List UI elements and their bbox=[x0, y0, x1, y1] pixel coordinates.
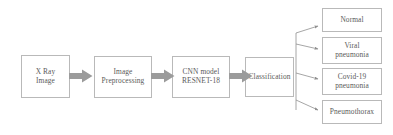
branch-line-covid bbox=[296, 73, 318, 79]
arrow-right-icon-xray-to-preprocessing bbox=[69, 69, 93, 83]
arrow-right-icon-cnn-to-classification bbox=[229, 69, 253, 83]
node-output-normal[interactable]: Normal bbox=[322, 8, 382, 32]
branch-line-viral bbox=[296, 44, 318, 49]
node-output-pneumothorax-label: Pneumothorax bbox=[330, 108, 374, 117]
node-output-covid-19-pneumonia[interactable]: Covid-19 pneumonia bbox=[322, 68, 382, 95]
flowchart-diagram: X Ray Image Image Preprocessing CNN mode… bbox=[0, 0, 393, 135]
node-image-preprocessing[interactable]: Image Preprocessing bbox=[94, 56, 152, 98]
node-x-ray-image[interactable]: X Ray Image bbox=[21, 55, 70, 98]
branch-line-pneumothorax bbox=[296, 100, 318, 110]
node-classification-label: Classification bbox=[248, 73, 290, 82]
node-image-preprocessing-label: Image Preprocessing bbox=[102, 68, 145, 85]
node-x-ray-image-label: X Ray Image bbox=[36, 68, 56, 85]
node-output-viral-pneumonia[interactable]: Viral pneumonia bbox=[322, 37, 382, 64]
node-output-pneumothorax[interactable]: Pneumothorax bbox=[322, 100, 382, 124]
node-cnn-model-resnet-18[interactable]: CNN model RESNET-18 bbox=[172, 56, 230, 98]
node-output-covid-19-pneumonia-label: Covid-19 pneumonia bbox=[335, 73, 369, 90]
node-cnn-model-resnet-18-label: CNN model RESNET-18 bbox=[182, 68, 220, 85]
branch-line-normal bbox=[296, 26, 318, 33]
node-output-normal-label: Normal bbox=[340, 16, 363, 25]
arrow-right-icon-preprocessing-to-cnn bbox=[151, 69, 175, 83]
node-output-viral-pneumonia-label: Viral pneumonia bbox=[335, 42, 369, 59]
